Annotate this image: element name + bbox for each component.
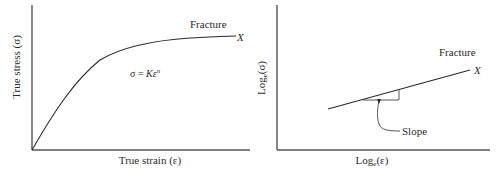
right-x-label-arg: (ε) bbox=[376, 154, 388, 167]
right-fracture-marker: X bbox=[473, 64, 482, 76]
left-fracture-marker: X bbox=[236, 31, 245, 43]
log-log-line bbox=[328, 70, 470, 109]
slope-label: Slope bbox=[402, 125, 427, 137]
right-x-axis-label: Loge(ε) bbox=[356, 154, 389, 168]
right-y-label-base: Log bbox=[255, 77, 267, 95]
left-panel-stress-strain: True stress (σ) True strain (ε) Fracture… bbox=[10, 5, 250, 167]
slope-leader-arrow-icon bbox=[377, 99, 381, 104]
right-fracture-label: Fracture bbox=[439, 46, 476, 58]
equation-exponent: n bbox=[157, 67, 161, 75]
flow-curve bbox=[32, 36, 236, 150]
left-y-axis-label: True stress (σ) bbox=[10, 35, 23, 99]
left-fracture-label: Fracture bbox=[190, 18, 227, 30]
left-x-axis-label: True strain (ε) bbox=[119, 154, 182, 167]
right-panel-log-log: Slope Fracture X Loge(σ) Loge(ε) bbox=[255, 5, 490, 168]
equation-lhs: σ = bbox=[130, 68, 146, 79]
right-y-label-arg: (σ) bbox=[255, 61, 268, 75]
equation-label: σ = Kεn bbox=[130, 67, 161, 79]
slope-leader bbox=[378, 101, 401, 131]
diagram-canvas: True stress (σ) True strain (ε) Fracture… bbox=[0, 0, 503, 170]
right-x-label-base: Log bbox=[356, 154, 374, 166]
right-y-axis-label: Loge(σ) bbox=[255, 61, 269, 95]
